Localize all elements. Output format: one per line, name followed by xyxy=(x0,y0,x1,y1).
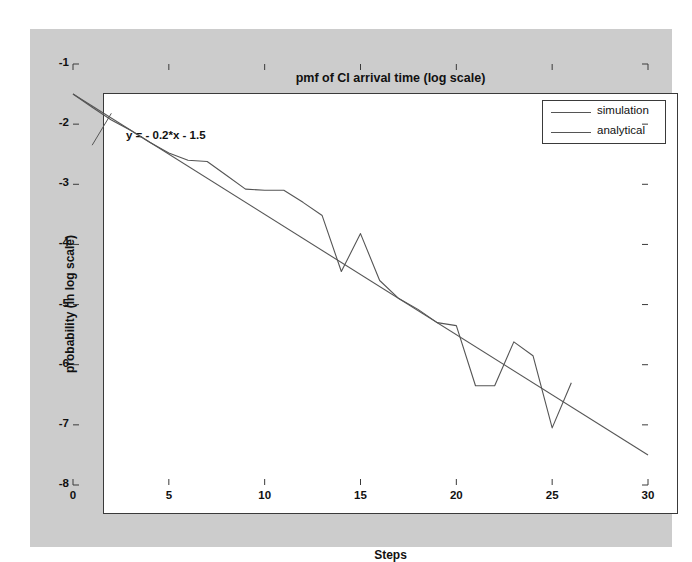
legend-label: analytical xyxy=(597,124,645,136)
chart-title: pmf of CI arrival time (log scale) xyxy=(103,71,678,85)
y-tick-label: -5 xyxy=(43,297,69,309)
x-tick-label: 30 xyxy=(633,489,663,501)
y-tick-label: -7 xyxy=(43,417,69,429)
y-tick-label: -8 xyxy=(43,477,69,489)
x-axis-label: Steps xyxy=(103,548,678,562)
x-tick-label: 10 xyxy=(250,489,280,501)
x-tick-label: 20 xyxy=(441,489,471,501)
y-tick-label: -1 xyxy=(43,56,69,68)
equation-annotation: y = - 0.2*x - 1.5 xyxy=(126,129,206,141)
legend-item-simulation: simulation xyxy=(543,102,667,123)
x-tick-label: 0 xyxy=(58,489,88,501)
x-tick-label: 5 xyxy=(154,489,184,501)
legend-label: simulation xyxy=(597,104,649,116)
chart-legend: simulation analytical xyxy=(542,100,666,144)
plot-axes-area xyxy=(103,93,678,514)
figure-canvas: pmf of CI arrival time (log scale) Steps… xyxy=(30,29,672,547)
y-tick-label: -6 xyxy=(43,357,69,369)
legend-item-analytical: analytical xyxy=(543,122,667,143)
x-tick-label: 25 xyxy=(537,489,567,501)
legend-line-icon xyxy=(551,112,591,113)
x-tick-label: 15 xyxy=(346,489,376,501)
legend-line-icon xyxy=(551,132,591,133)
y-tick-label: -4 xyxy=(43,236,69,248)
y-tick-label: -3 xyxy=(43,176,69,188)
y-tick-label: -2 xyxy=(43,116,69,128)
